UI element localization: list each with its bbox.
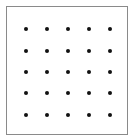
grid-dot <box>24 27 28 31</box>
grid-dot <box>24 91 28 95</box>
grid-dot <box>45 113 49 117</box>
grid-dot <box>87 49 91 53</box>
grid-dot <box>66 27 70 31</box>
grid-dot <box>108 70 112 74</box>
grid-dot <box>108 113 112 117</box>
grid-dot <box>87 91 91 95</box>
grid-dot <box>108 49 112 53</box>
grid-dot <box>87 70 91 74</box>
grid-dot <box>66 113 70 117</box>
grid-dot <box>45 49 49 53</box>
grid-dot <box>45 70 49 74</box>
grid-dot <box>108 91 112 95</box>
grid-dot <box>24 49 28 53</box>
grid-dot <box>108 27 112 31</box>
grid-dot <box>66 70 70 74</box>
grid-dot <box>45 27 49 31</box>
grid-dot <box>66 91 70 95</box>
grid-dot <box>45 91 49 95</box>
grid-dot <box>87 113 91 117</box>
grid-dot <box>24 70 28 74</box>
grid-dot <box>87 27 91 31</box>
grid-dot <box>66 49 70 53</box>
grid-dot <box>24 113 28 117</box>
